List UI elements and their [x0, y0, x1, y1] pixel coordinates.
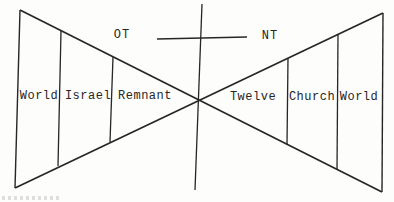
segment-label-israel: Israel	[65, 90, 111, 103]
divider-world-israel	[58, 31, 61, 166]
cropped-caption-fragment	[2, 196, 60, 200]
divider-twelve-church	[287, 58, 288, 145]
era-label-ot: OT	[114, 29, 130, 42]
segment-label-world-right: World	[340, 91, 379, 104]
bowtie-timeline-diagram: OT NT World Israel Remnant Twelve Church…	[0, 0, 394, 202]
timeline-vertical-axis	[195, 4, 202, 190]
era-label-nt: NT	[262, 30, 278, 43]
segment-label-world-left: World	[20, 90, 59, 103]
segment-label-church: Church	[289, 91, 335, 104]
segment-label-remnant: Remnant	[118, 90, 172, 103]
segment-label-twelve: Twelve	[230, 91, 276, 104]
divider-church-world	[337, 34, 338, 170]
timeline-horizontal-tick	[157, 37, 247, 39]
right-triangle-right-edge	[382, 13, 383, 192]
